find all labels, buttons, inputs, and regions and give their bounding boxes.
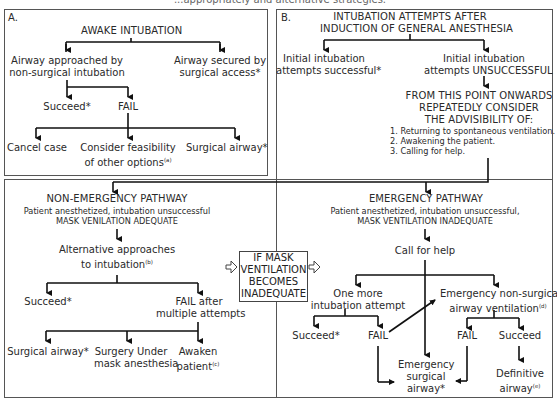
line: mask anesthesia [94,358,168,370]
awake-surgical-airway: Surgical airway* [186,142,266,154]
panel-a-label: A. [8,12,18,24]
line: MASK VENTILATION INADEQUATE [320,216,530,226]
line: REPEATEDLY CONSIDER [404,102,554,114]
line: Alternative approaches [57,244,177,256]
repeatedly-consider: FROM THIS POINT ONWARDS REPEATEDLY CONSI… [404,90,554,126]
initial-unsuccessful: Initial intubation attempts UNSUCCESSFUL [424,53,544,77]
non-emergency-surgical-airway: Surgical airway* [6,346,90,358]
one-more-attempt: One more intubation attempt [310,288,406,312]
line: of other options(a) [80,154,176,169]
line: Initial intubation [424,53,544,65]
emergency-succeed-right: Succeed [496,330,544,342]
line: BECOMES [240,276,307,288]
awake-nonsurgical: Airway approached by non-surgical intuba… [4,55,130,79]
line: airway ventilation(d) [440,300,556,315]
footnote: (a) [164,157,172,163]
mask-ventilation-inadequate-box: IF MASK VENTILATION BECOMES INADEQUATE [239,251,308,302]
hollow-arrow-out-icon [309,261,320,273]
list-item: 3. Calling for help. [390,146,555,156]
panel-a-title: AWAKE INTUBATION [81,25,181,37]
list-item: 2. Awakening the patient. [390,136,555,146]
text: airway [500,383,533,394]
hollow-arrow-in-icon [226,261,237,273]
line: multiple attempts [156,308,242,320]
line: IF MASK [240,252,307,264]
line: patient(c) [174,358,222,373]
list-item: 1. Returning to spontaneous ventilation. [390,126,555,136]
line: Definitive [492,368,548,380]
line: One more [310,288,406,300]
line: VENTILATION [240,264,307,276]
consider-list: 1. Returning to spontaneous ventilation.… [390,126,555,156]
line: attempts UNSUCCESSFUL [424,65,544,77]
line: to intubation(b) [57,256,177,271]
line: surgical access* [170,67,270,79]
non-emergency-desc: Patient anesthetized, intubation unsucce… [17,206,217,226]
line: INDUCTION OF GENERAL ANESTHESIA [320,23,500,35]
non-emergency-succeed: Succeed* [20,296,76,308]
surgery-under-mask: Surgery Under mask anesthesia [94,346,168,370]
panel-b-title: INTUBATION ATTEMPTS AFTER INDUCTION OF G… [320,11,500,35]
line: Awaken [174,346,222,358]
initial-success: Initial intubation attempts successful* [276,53,372,77]
definitive-airway: Definitive airway(e) [492,368,548,395]
line: INADEQUATE [240,288,307,300]
line: Airway approached by [4,55,130,67]
footnote: (e) [533,383,541,389]
airway-algorithm-diagram: ...appropriately and alternative strateg… [0,0,557,406]
line: Initial intubation [276,53,372,65]
line: INTUBATION ATTEMPTS AFTER [320,11,500,23]
awake-surgical-access: Airway secured by surgical access* [170,55,270,79]
line: Patient anesthetized, intubation unsucce… [320,206,530,216]
line: attempts successful* [276,65,372,77]
line: MASK VENILATION ADEQUATE [17,216,217,226]
text: airway ventilation [449,303,539,314]
emergency-desc: Patient anesthetized, intubation unsucce… [320,206,530,226]
line: surgical [398,371,454,383]
line: Consider feasibility [80,142,176,154]
line: intubation attempt [310,300,406,312]
awake-fail: FAIL [112,101,144,113]
line: Emergency non-surgical [440,288,556,300]
text: of other options [84,157,163,168]
line: airway(e) [492,380,548,395]
footnote: (b) [145,259,153,265]
footnote: (c) [212,361,219,367]
text: to intubation [81,259,145,270]
cancel-case: Cancel case [6,142,68,154]
awake-succeed: Succeed* [40,101,94,113]
footnote: (d) [539,303,547,309]
panel-b-label: B. [281,12,291,24]
line: Emergency [398,359,454,371]
line: Surgery Under [94,346,168,358]
emergency-title: EMERGENCY PATHWAY [356,193,496,205]
emergency-fail-right: FAIL [453,330,481,342]
consider-feasibility: Consider feasibility of other options(a) [80,142,176,169]
non-emergency-title: NON-EMERGENCY PATHWAY [37,193,197,205]
emergency-nonsurgical-ventilation: Emergency non-surgical airway ventilatio… [440,288,556,315]
emergency-succeed-left: Succeed* [288,330,344,342]
line: airway* [398,383,454,395]
line: FAIL after [156,296,242,308]
text: patient [177,361,213,372]
emergency-surgical-airway: Emergency surgical airway* [398,359,454,395]
alternative-approaches: Alternative approaches to intubation(b) [57,244,177,271]
line: FROM THIS POINT ONWARDS [404,90,554,102]
line: Airway secured by [170,55,270,67]
line: Patient anesthetized, intubation unsucce… [17,206,217,216]
call-for-help: Call for help [385,245,465,257]
awaken-patient: Awaken patient(c) [174,346,222,373]
line: THE ADVISIBILITY OF: [404,114,554,126]
line: non-surgical intubation [4,67,130,79]
non-emergency-fail: FAIL after multiple attempts [156,296,242,320]
emergency-fail-left: FAIL [364,330,392,342]
